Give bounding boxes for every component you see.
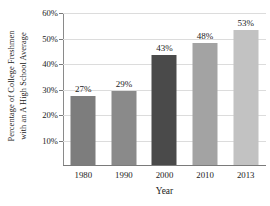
bar[interactable] xyxy=(193,43,218,165)
x-axis-tick-label: 1990 xyxy=(115,170,133,181)
bar-chart: Percentage of College Freshmen with an A… xyxy=(0,0,270,206)
x-axis-tick-label: 2010 xyxy=(196,170,214,181)
bar-slot: 48% xyxy=(185,13,226,165)
bar-value-label: 43% xyxy=(156,43,173,53)
y-axis-tick-label: 40% xyxy=(42,60,58,69)
bar-slot: 27% xyxy=(63,13,104,165)
y-axis-title: Percentage of College Freshmen with an A… xyxy=(0,0,34,172)
x-axis-line xyxy=(63,165,266,166)
y-axis-title-text: Percentage of College Freshmen with an A… xyxy=(6,30,29,141)
bar-value-label: 48% xyxy=(197,31,214,41)
plot-area: 27%29%43%48%53% xyxy=(63,13,266,166)
bar-slot: 43% xyxy=(144,13,185,165)
y-axis-tick-label: 30% xyxy=(42,85,58,94)
x-axis-title: Year xyxy=(63,186,266,197)
bar-value-label: 27% xyxy=(75,84,92,94)
y-axis-tick-labels: 10%20%30%40%50%60% xyxy=(33,0,61,172)
bar[interactable] xyxy=(111,91,136,165)
bar-series: 27%29%43%48%53% xyxy=(63,13,266,165)
y-axis-title-line-1: Percentage of College Freshmen xyxy=(6,30,18,141)
bar-slot: 29% xyxy=(104,13,145,165)
y-axis-tick-label: 60% xyxy=(42,9,58,18)
y-axis-tick-label: 50% xyxy=(42,34,58,43)
bar[interactable] xyxy=(71,96,96,165)
y-axis-title-line-2: with an A High School Average xyxy=(17,30,29,141)
y-axis-tick-label: 20% xyxy=(42,111,58,120)
x-axis-tick-label: 1980 xyxy=(75,170,93,181)
x-axis-tick-label: 2013 xyxy=(237,170,255,181)
y-axis-tick-label: 10% xyxy=(42,136,58,145)
bar[interactable] xyxy=(233,30,258,165)
bar-value-label: 53% xyxy=(237,18,254,28)
bar-slot: 53% xyxy=(225,13,266,165)
bar-value-label: 29% xyxy=(116,79,133,89)
x-axis-tick-labels: 19801990200020102013 xyxy=(63,170,266,184)
x-axis-tick-label: 2000 xyxy=(156,170,174,181)
bar[interactable] xyxy=(152,55,177,165)
